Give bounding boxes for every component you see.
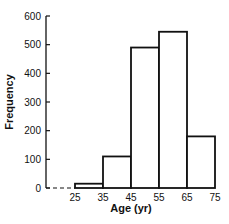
y-tick-label: 500 [24,39,41,50]
y-tick-label: 300 [24,97,41,108]
y-tick-label: 600 [24,11,41,22]
histogram-bar-35-45 [103,156,131,188]
histogram-bar-25-35 [75,184,103,188]
histogram-chart: 0100200300400500600 253545556575 Frequen… [0,0,229,224]
histogram-bars [75,32,215,188]
x-tick-label: 25 [69,192,81,203]
y-tick-label: 400 [24,68,41,79]
x-tick-label: 55 [153,192,165,203]
histogram-bar-45-55 [131,48,159,188]
x-tick-label: 65 [181,192,193,203]
y-tick-label: 100 [24,154,41,165]
x-tick-label: 75 [209,192,221,203]
y-tick-label: 200 [24,125,41,136]
x-tick-label: 35 [97,192,109,203]
x-axis: 253545556575 [46,188,221,203]
y-tick-label: 0 [35,183,41,194]
x-axis-title: Age (yr) [110,202,152,214]
histogram-bar-55-65 [159,32,187,188]
y-axis-title: Frequency [3,73,15,130]
histogram-bar-65-75 [187,136,215,188]
y-axis: 0100200300400500600 [24,11,50,194]
